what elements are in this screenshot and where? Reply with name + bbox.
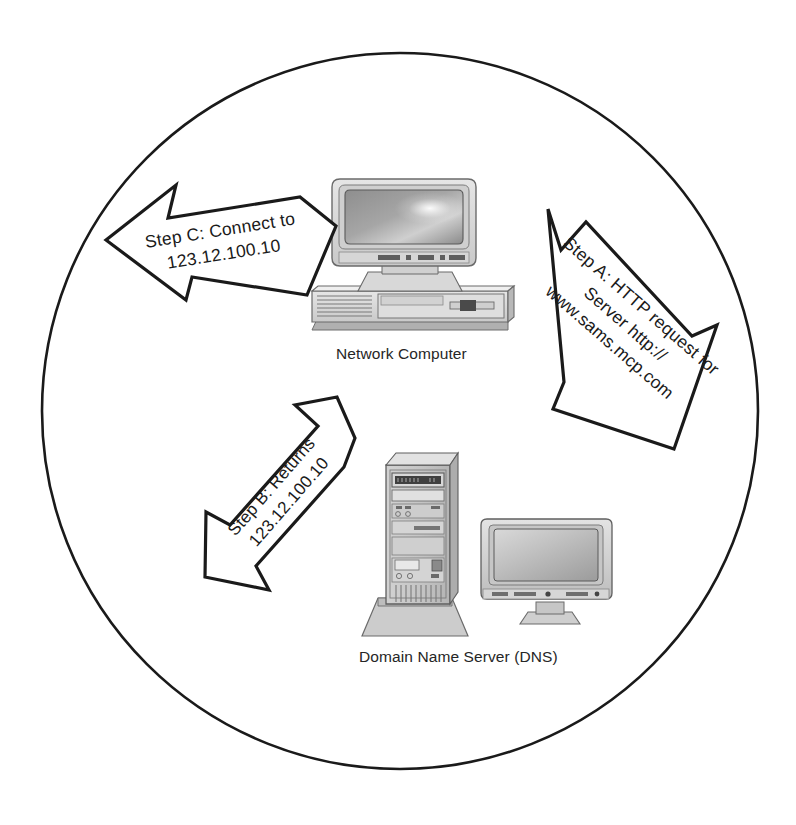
server-monitor-icon xyxy=(481,519,612,624)
diagram-canvas: Step C: Connect to 123.12.100.10 Step A:… xyxy=(0,0,796,825)
network-diagram: Step C: Connect to 123.12.100.10 Step A:… xyxy=(0,0,796,825)
dns-server-label: Domain Name Server (DNS) xyxy=(359,648,558,666)
desktop-computer-icon xyxy=(312,179,514,330)
step-b-arrow: Step B: Returns 123.12.100.10 xyxy=(205,397,355,590)
tower-server-icon xyxy=(362,453,612,636)
step-c-arrow: Step C: Connect to 123.12.100.10 xyxy=(106,185,336,300)
step-a-arrow: Step A: HTTP request for Server http:// … xyxy=(528,209,724,449)
network-computer-label: Network Computer xyxy=(336,345,467,363)
